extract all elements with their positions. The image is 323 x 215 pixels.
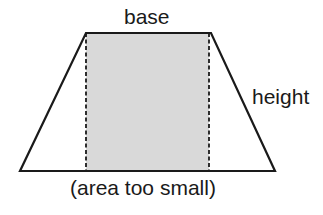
caption-label: (area too small) [70, 177, 216, 198]
trapezoid-area-diagram: base height (area too small) [0, 0, 323, 215]
shaded-rectangle [86, 33, 209, 171]
height-label: height [252, 86, 309, 107]
base-label: base [124, 6, 170, 27]
